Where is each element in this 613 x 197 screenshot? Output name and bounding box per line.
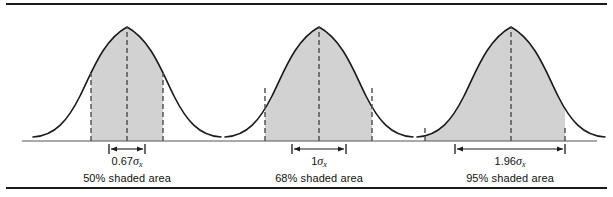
interval-arrow-3	[455, 144, 565, 154]
interval-label-3: 1.96σx	[470, 155, 550, 171]
interval-label-1: 0.67σx	[87, 155, 167, 171]
sigma-subscript-1: x	[139, 160, 143, 169]
top-rule	[6, 3, 607, 5]
interval-arrow-2	[292, 144, 346, 154]
distribution-group-3	[417, 27, 605, 154]
interval-label-2: 1σx	[279, 155, 359, 171]
sigma-subscript-2: x	[323, 160, 327, 169]
area-caption-3: 95% shaded area	[440, 172, 580, 185]
sigma-subscript-3: x	[522, 160, 526, 169]
interval-value-3: 1.96	[495, 155, 516, 167]
area-caption-2: 68% shaded area	[249, 172, 389, 185]
distribution-group-2	[225, 27, 413, 154]
area-caption-1: 50% shaded area	[57, 172, 197, 185]
interval-arrow-1	[109, 144, 145, 154]
bottom-rule	[6, 187, 607, 189]
normal-curves-figure: 0.67σx 1σx 1.96σx 50% shaded area 68% sh…	[0, 0, 613, 197]
distribution-group-1	[33, 27, 221, 154]
interval-value-1: 0.67	[112, 155, 133, 167]
